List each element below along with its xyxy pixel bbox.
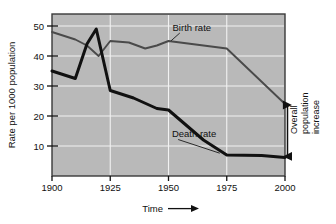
overall-line-2: population — [300, 92, 310, 134]
birth-rate-label: Birth rate — [173, 22, 212, 33]
x-axis-title: Time — [142, 203, 163, 214]
x-tick-label: 1950 — [158, 182, 179, 193]
y-axis-tick-labels: 1020304050 — [33, 21, 44, 152]
x-tick-label: 1900 — [41, 182, 62, 193]
x-axis-ticks — [52, 176, 285, 181]
y-tick-label: 50 — [33, 21, 44, 32]
x-tick-label: 1925 — [100, 182, 121, 193]
x-tick-label: 1975 — [216, 182, 237, 193]
y-tick-label: 40 — [33, 51, 44, 62]
y-tick-label: 30 — [33, 81, 44, 92]
overall-population-increase-label: Overall population increase — [289, 92, 321, 134]
x-axis-tick-labels: 19001925195019752000 — [41, 182, 295, 193]
overall-line-1: Overall — [289, 105, 299, 134]
death-rate-label: Death rate — [172, 128, 216, 139]
overall-line-3: increase — [311, 100, 321, 134]
y-tick-label: 20 — [33, 111, 44, 122]
y-tick-label: 10 — [33, 141, 44, 152]
chart-figure: 1020304050 19001925195019752000 Birth ra… — [0, 0, 336, 224]
y-axis-title: Rate per 1000 population — [6, 42, 17, 149]
x-tick-label: 2000 — [274, 182, 295, 193]
birth-death-rate-line-chart: 1020304050 19001925195019752000 Birth ra… — [0, 0, 336, 224]
